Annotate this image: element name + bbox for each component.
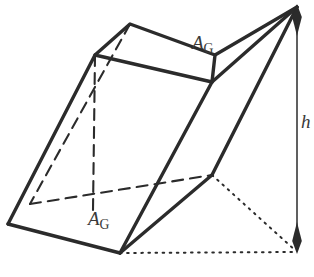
top-face-area-symbol: A	[192, 32, 204, 53]
hidden-edge-top-front-left-to-bottom-inner	[93, 55, 95, 210]
edge-bottom-front-mid-to-bottom-right	[120, 175, 212, 253]
height-label: h	[301, 112, 311, 131]
visible-edges-group	[8, 7, 297, 253]
bottom-face-area-label: AG	[88, 209, 109, 232]
hidden-edge-top-back-left-to-bottom-back-left	[30, 24, 130, 204]
geometry-figure: AG AG h	[0, 0, 314, 277]
edge-apex-to-top-front-right	[212, 7, 297, 82]
top-face-area-label: AG	[192, 33, 213, 56]
edge-top-front-right-to-bottom-right	[120, 82, 212, 253]
bottom-face-area-subscript: G	[100, 217, 110, 232]
prism-drawing	[0, 0, 314, 277]
projection-lines-group	[120, 175, 296, 253]
edge-top-front-left-to-bottom-front-left	[8, 55, 95, 224]
dimension-arrowhead-bottom	[292, 222, 302, 254]
projection-line-base-horizontal	[120, 252, 296, 253]
top-face-area-subscript: G	[204, 41, 214, 56]
projection-line-diagonal	[212, 175, 296, 251]
bottom-face-area-symbol: A	[88, 208, 100, 229]
hidden-edges-group	[30, 24, 212, 210]
